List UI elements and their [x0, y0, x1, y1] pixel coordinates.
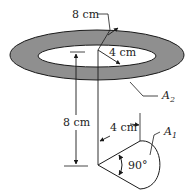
- a1-label: A1: [163, 125, 177, 140]
- a2-leader: [130, 82, 158, 96]
- outer-radius-label: 8 cm: [72, 8, 100, 21]
- view-factor-diagram: 8 cm 8 cm 4 cm A2 4 cm 90° A1: [0, 0, 193, 194]
- annulus-a2: [10, 30, 184, 80]
- inner-radius-label: 4 cm: [109, 46, 137, 59]
- a2-label: A2: [161, 89, 175, 104]
- height-label: 8 cm: [63, 116, 91, 129]
- cone-radius-arrow-left: [100, 136, 110, 141]
- cone-radius-label: 4 cm: [110, 121, 138, 134]
- angle-label: 90°: [128, 159, 148, 172]
